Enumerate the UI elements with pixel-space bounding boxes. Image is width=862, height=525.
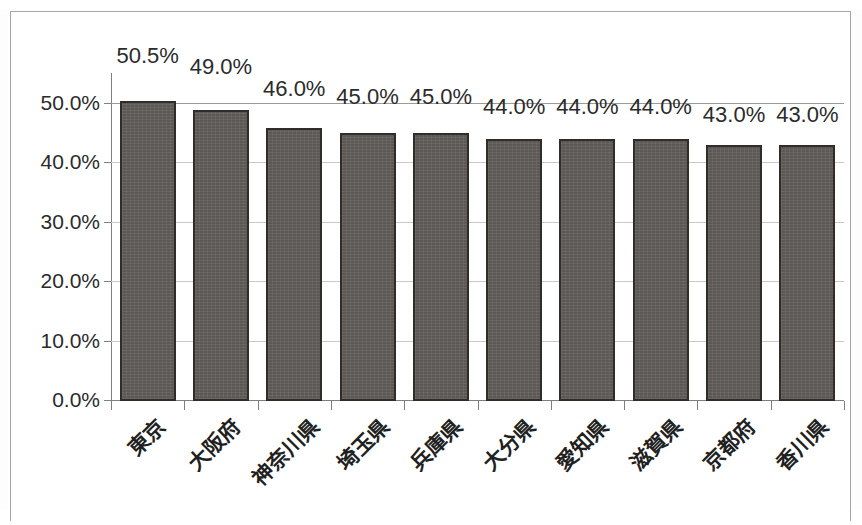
x-axis-tick — [111, 401, 112, 410]
x-axis-tick — [624, 401, 625, 410]
y-axis-tick-label: 20.0% — [40, 270, 100, 291]
y-axis-line — [111, 73, 112, 401]
y-axis-tick — [104, 103, 111, 104]
scan-ghost-text-right: —— —— — — [148, 0, 211, 4]
y-axis-tick-label: 40.0% — [40, 151, 100, 172]
y-axis-tick — [104, 341, 111, 342]
plot-area: 0.0%10.0%20.0%30.0%40.0%50.0%50.5%東京49.0… — [111, 74, 844, 401]
bar — [633, 139, 689, 401]
y-axis-tick — [104, 281, 111, 282]
x-axis-tick — [184, 401, 185, 410]
y-axis-tick — [104, 222, 111, 223]
x-axis-tick — [478, 401, 479, 410]
bar — [706, 145, 762, 401]
bar — [120, 101, 176, 401]
bar — [340, 133, 396, 401]
bar — [486, 139, 542, 401]
x-axis-tick — [697, 401, 698, 410]
y-axis-tick-label: 30.0% — [40, 211, 100, 232]
bar — [266, 128, 322, 401]
bar — [413, 133, 469, 401]
bar — [779, 145, 835, 401]
bar — [193, 110, 249, 401]
y-axis-tick — [104, 400, 111, 401]
x-axis-tick — [404, 401, 405, 410]
y-axis-tick-label: 10.0% — [40, 330, 100, 351]
x-axis-tick — [331, 401, 332, 410]
x-axis-tick — [258, 401, 259, 410]
y-axis-tick — [104, 162, 111, 163]
bar-value-label: 49.0% — [176, 56, 266, 78]
y-axis-tick-label: 50.0% — [40, 92, 100, 113]
bar — [559, 139, 615, 401]
bar-value-label: 43.0% — [762, 104, 852, 126]
x-axis-tick — [844, 401, 845, 410]
scan-artifact-strip: — ——— —— —— — — [0, 0, 862, 9]
y-axis-tick-label: 0.0% — [52, 389, 100, 410]
chart-frame: 0.0%10.0%20.0%30.0%40.0%50.0%50.5%東京49.0… — [10, 11, 851, 521]
x-axis-tick — [771, 401, 772, 410]
scan-ghost-text-left: — ——— — [18, 0, 66, 4]
x-axis-tick — [551, 401, 552, 410]
